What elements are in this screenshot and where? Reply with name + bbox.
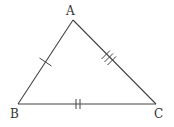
tick-marks-ab <box>40 58 52 66</box>
vertex-label-a: A <box>65 4 75 18</box>
tick-marks-ac <box>102 51 117 66</box>
vertex-label-b: B <box>10 107 19 121</box>
vertex-label-c: C <box>154 107 163 121</box>
side-ac <box>73 20 156 104</box>
triangle-diagram: A B C <box>0 0 174 127</box>
